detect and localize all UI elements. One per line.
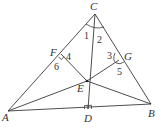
point-e-dot — [86, 80, 89, 83]
label-e: E — [76, 82, 84, 94]
angle-label-1: 1 — [84, 30, 89, 41]
angle-label-5: 5 — [117, 66, 122, 77]
segment-cd — [88, 14, 95, 109]
segment-ea — [8, 81, 87, 111]
label-d: D — [83, 112, 92, 124]
segment-eb — [87, 81, 151, 104]
angle-label-2: 2 — [97, 34, 102, 45]
segment-ef — [61, 54, 87, 81]
triangle-figure: A B C D E F G 1 2 3 4 5 6 — [0, 0, 161, 130]
geometry-diagram: A B C D E F G 1 2 3 4 5 6 — [0, 0, 161, 130]
label-g: G — [124, 50, 132, 62]
angle-label-3: 3 — [107, 50, 112, 61]
label-f: F — [49, 46, 57, 58]
label-c: C — [90, 0, 98, 12]
segment-ab — [8, 104, 151, 111]
angle-label-6: 6 — [54, 61, 59, 72]
segment-ca — [8, 14, 95, 111]
label-b: B — [148, 107, 155, 119]
label-a: A — [1, 111, 9, 123]
angle-label-4: 4 — [66, 51, 71, 62]
right-angle-mark-f — [59, 57, 65, 60]
